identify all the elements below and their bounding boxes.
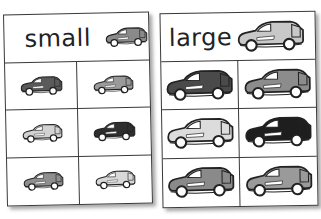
grid-cell [5,62,78,111]
car-icon [243,114,314,150]
car-grid [161,60,317,207]
car-icon [21,122,63,144]
grid-cell [78,108,151,157]
car-icon [92,73,134,95]
card-title: small [24,23,91,52]
card-header: small [4,13,149,64]
card-header: large [160,12,315,62]
grid-cell [162,109,240,159]
car-icon [236,18,307,54]
car-grid [5,61,152,206]
car-icon [22,170,64,192]
car-icon [94,169,136,191]
car-icon [165,116,236,152]
grid-cell [77,61,150,110]
grid-cell [239,108,317,158]
grid-cell [7,157,80,206]
large-cars-card: large [159,11,318,208]
car-icon [242,66,313,102]
grid-cell [6,109,79,158]
small-cars-card: small [3,11,153,206]
car-icon [166,164,237,200]
grid-cell [163,158,241,208]
car-icon [19,74,63,97]
car-icon [243,163,314,199]
car-icon [105,25,149,48]
grid-cell [161,61,239,111]
car-icon [164,67,235,103]
car-icon [92,120,136,143]
card-title: large [169,23,233,52]
grid-cell [240,156,318,206]
grid-cell [238,60,316,110]
grid-cell [79,155,152,204]
